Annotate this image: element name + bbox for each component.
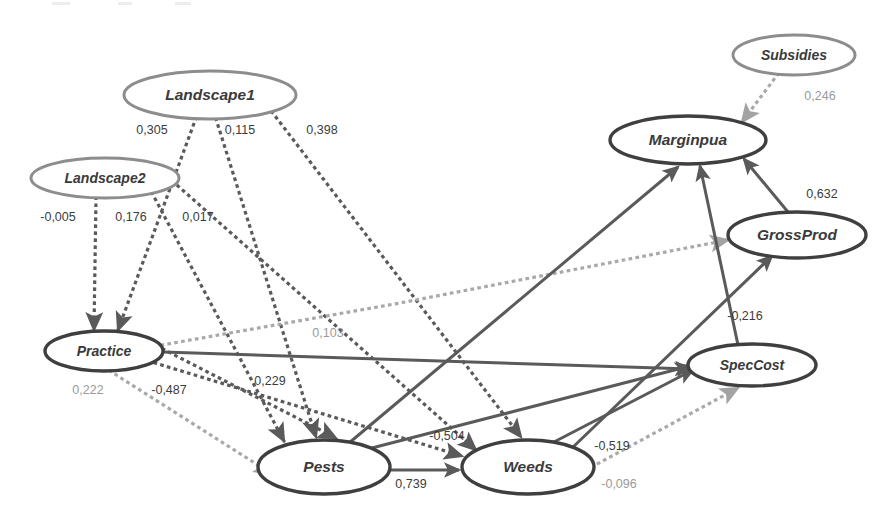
edge-label-speccost-marginpua: -0,216 [727,309,762,323]
edge-label-landscape1-practice: 0,305 [136,123,167,137]
node-pests[interactable]: Pests [258,440,390,494]
node-weeds-label: Weeds [503,458,553,475]
node-subsidies-label: Subsidies [761,47,827,63]
edge-pests-marginpua [349,167,678,443]
edge-weeds-speccost [586,388,738,470]
edge-landscape1-pests [216,119,316,437]
edge-pests-speccost [368,366,690,449]
edge-label-weeds-grossprod: -0,519 [594,439,629,453]
edge-label-landscape2-pests: 0,176 [115,210,146,224]
node-practice-label: Practice [77,343,132,359]
path-diagram-canvas: Landscape1 Landscape2 Subsidies Marginpu… [0,0,890,520]
node-speccost[interactable]: SpecCost [688,344,816,386]
edge-weeds-speccost-solid [552,370,693,443]
node-landscape2-label: Landscape2 [65,170,146,186]
node-speccost-label: SpecCost [720,357,786,373]
node-landscape1-label: Landscape1 [165,86,255,103]
edge-label-landscape1-pests: 0,115 [225,123,255,137]
diagram-svg: Landscape1 Landscape2 Subsidies Marginpu… [0,0,890,520]
edge-practice-pests-light [110,371,272,474]
edge-label-practice-pests-light: 0,222 [72,383,103,397]
edge-landscape2-pests [152,193,284,441]
edge-landscape2-practice [94,198,96,330]
edge-label-practice-weeds: -0,487 [151,383,186,397]
edge-grossprod-marginpua [744,159,788,212]
node-grossprod[interactable]: GrossProd [728,212,866,258]
node-grossprod-label: GrossProd [757,226,838,243]
edge-label-practice-grossprod: 0,103 [312,326,343,340]
edge-label-pests-marginpua: -0,504 [429,429,464,443]
node-landscape2[interactable]: Landscape2 [31,158,179,198]
edge-landscape1-weeds [272,112,521,437]
node-marginpua-label: Marginpua [649,131,728,148]
node-pests-label: Pests [303,458,345,475]
node-landscape1[interactable]: Landscape1 [124,71,296,119]
edge-label-landscape2-practice: -0,005 [40,210,75,224]
edge-label-subsidies-marginpua: 0,246 [804,89,835,103]
node-subsidies[interactable]: Subsidies [733,35,855,75]
node-practice[interactable]: Practice [45,331,163,371]
edge-label-landscape2-weeds: 0,017 [182,210,213,224]
edge-label-practice-pests: 0,229 [254,374,285,388]
edge-label-landscape1-weeds: 0,398 [306,123,337,137]
node-marginpua[interactable]: Marginpua [610,116,766,164]
edge-subsidies-marginpua [742,74,778,122]
node-weeds[interactable]: Weeds [462,440,594,494]
edge-practice-grossprod [162,240,728,345]
edge-label-pests-weeds: 0,739 [395,477,426,491]
edge-label-weeds-speccost: -0,096 [601,477,636,491]
edge-label-grossprod-marginpua: 0,632 [806,187,837,201]
